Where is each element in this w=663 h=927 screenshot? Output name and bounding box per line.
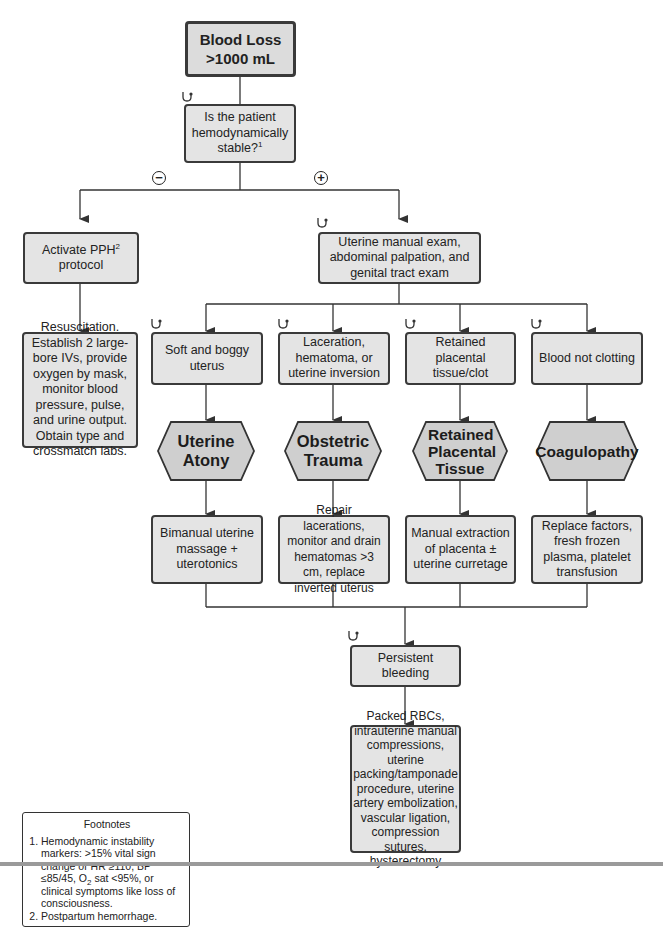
stethoscope-icon — [404, 318, 418, 332]
activate-text2: protocol — [59, 258, 103, 272]
start-line1: Blood Loss — [200, 30, 282, 49]
stethoscope-icon — [150, 318, 164, 332]
exam-text: Uterine manual exam, abdominal palpation… — [324, 235, 475, 282]
treatment-obstetric-trauma: Repair lacerations, monitor and drain he… — [278, 515, 390, 584]
stethoscope-icon — [277, 318, 291, 332]
finding-soft-boggy-uterus: Soft and boggy uterus — [151, 332, 263, 385]
start-line2: >1000 mL — [206, 49, 275, 68]
stethoscope-icon — [530, 318, 544, 332]
diagnosis-obstetric-trauma: Obstetric Trauma — [284, 421, 382, 481]
finding-text: Blood not clotting — [539, 351, 635, 367]
uterine-manual-exam: Uterine manual exam, abdominal palpation… — [318, 232, 481, 284]
resuscitation-text: Resuscitation. Establish 2 large-bore IV… — [28, 320, 132, 460]
stethoscope-icon — [316, 217, 330, 231]
footnote-2: Postpartum hemorrhage. — [41, 910, 185, 923]
activate-text: Activate PPH — [42, 243, 116, 257]
finding-text: Soft and boggy uterus — [157, 343, 257, 374]
diagnosis-text: Obstetric Trauma — [295, 432, 371, 470]
footnotes-title: Footnotes — [29, 818, 185, 831]
bottom-divider — [0, 862, 663, 866]
finding-text: Laceration, hematoma, or uterine inversi… — [284, 335, 384, 382]
treatment-text: Repair lacerations, monitor and drain he… — [284, 503, 384, 596]
finding-laceration-hematoma: Laceration, hematoma, or uterine inversi… — [278, 332, 390, 385]
treatment-text: Replace factors, fresh frozen plasma, pl… — [537, 519, 637, 581]
question-hemodynamically-stable: Is the patient hemodynamically stable?1 — [184, 104, 296, 163]
footnote-ref-1: 1 — [258, 140, 262, 149]
negative-branch-label: − — [152, 171, 166, 185]
finding-blood-not-clotting: Blood not clotting — [531, 332, 643, 385]
finding-retained-tissue: Retained placental tissue/clot — [405, 332, 516, 385]
positive-branch-label: + — [314, 171, 328, 185]
final-interventions: Packed RBCs, intrauterine manual compres… — [350, 725, 461, 853]
persistent-text: Persistent bleeding — [371, 651, 441, 682]
diagnosis-text: Uterine Atony — [176, 432, 236, 470]
persistent-bleeding: Persistent bleeding — [350, 645, 461, 687]
activate-pph-protocol: Activate PPH2 protocol — [23, 232, 139, 284]
stethoscope-icon — [181, 91, 195, 105]
footnote-1: Hemodynamic instability markers: >15% vi… — [41, 835, 185, 910]
treatment-coagulopathy: Replace factors, fresh frozen plasma, pl… — [531, 515, 643, 584]
final-text: Packed RBCs, intrauterine manual compres… — [353, 709, 458, 869]
treatment-text: Manual extraction of placenta ± uterine … — [411, 526, 510, 573]
treatment-text: Bimanual uterine massage + uterotonics — [157, 526, 257, 573]
finding-text: Retained placental tissue/clot — [411, 335, 510, 382]
resuscitation-box: Resuscitation. Establish 2 large-bore IV… — [22, 332, 138, 448]
stethoscope-icon — [347, 630, 361, 644]
diagnosis-retained-placental-tissue: Retained Placental Tissue — [412, 421, 508, 481]
diagnosis-uterine-atony: Uterine Atony — [157, 421, 255, 481]
diagnosis-coagulopathy: Coagulopathy — [536, 421, 638, 481]
footnote-ref-2: 2 — [116, 241, 120, 250]
diagnosis-text: Coagulopathy — [535, 442, 638, 461]
footnotes-box: Footnotes Hemodynamic instability marker… — [22, 812, 190, 927]
treatment-retained-tissue: Manual extraction of placenta ± uterine … — [405, 515, 516, 584]
question-text: Is the patient hemodynamically stable? — [192, 110, 289, 155]
start-node-blood-loss: Blood Loss >1000 mL — [185, 21, 296, 77]
treatment-uterine-atony: Bimanual uterine massage + uterotonics — [151, 515, 263, 584]
diagnosis-text: Retained Placental Tissue — [428, 426, 492, 477]
